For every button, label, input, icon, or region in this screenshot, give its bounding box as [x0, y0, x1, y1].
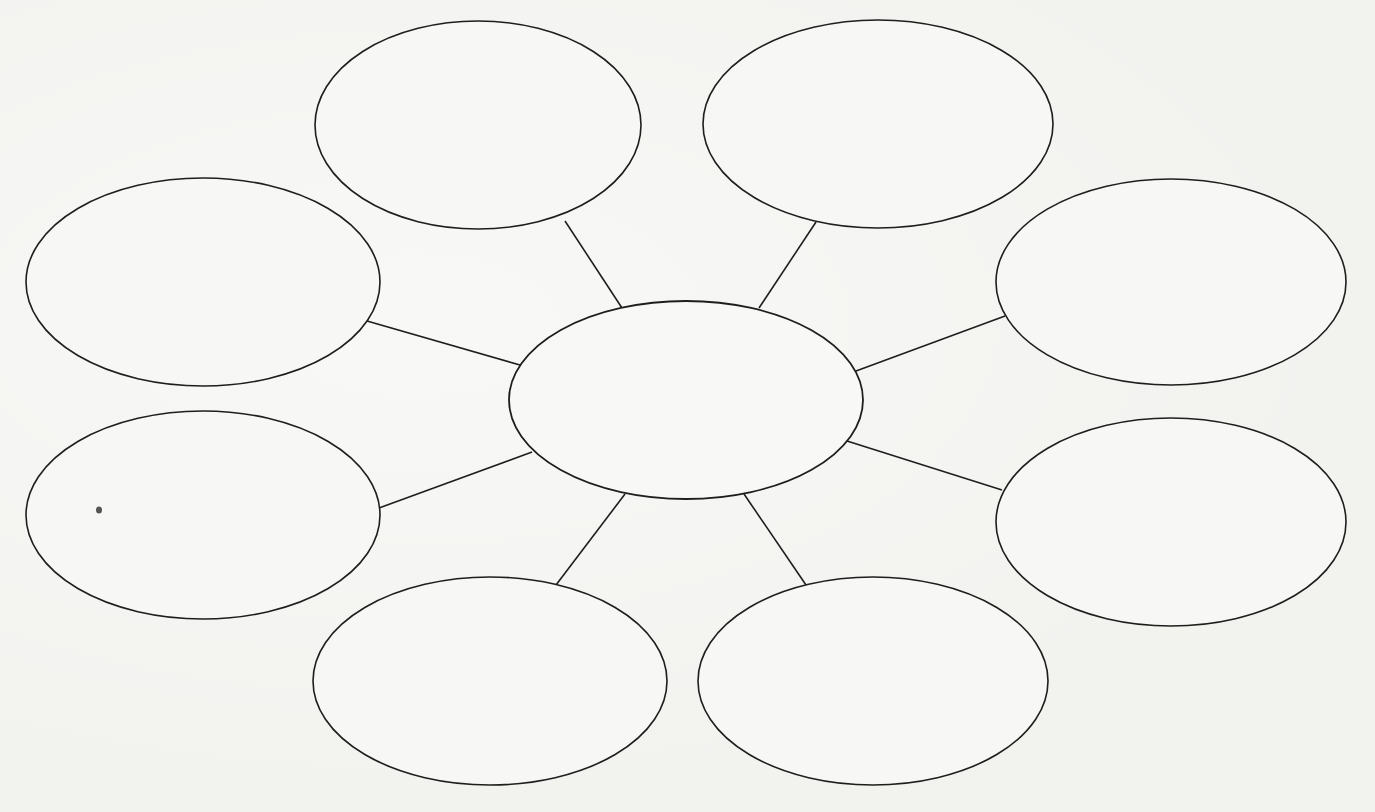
bubble-shape[interactable] [315, 21, 641, 229]
connector-line-lower-right [847, 441, 1002, 490]
bubble-shape[interactable] [703, 20, 1053, 228]
bubble-upper-left[interactable] [26, 178, 380, 386]
connector-line-bottom-left [556, 494, 625, 585]
bubble-top-right[interactable] [703, 20, 1053, 228]
connector-line-bottom-right [744, 494, 806, 585]
connector-line-lower-left [379, 452, 532, 508]
connector-line-top-right [759, 222, 816, 308]
bubble-bottom-left[interactable] [313, 577, 667, 785]
bubble-map-diagram [0, 0, 1375, 812]
paper-speck [96, 507, 102, 514]
bubble-top-left[interactable] [315, 21, 641, 229]
bubble-bottom-right[interactable] [698, 577, 1048, 785]
bubble-shape[interactable] [698, 577, 1048, 785]
bubble-shape[interactable] [313, 577, 667, 785]
bubble-upper-right[interactable] [996, 179, 1346, 385]
bubble-shape[interactable] [26, 178, 380, 386]
connector-line-upper-left [367, 321, 520, 365]
bubble-lower-right[interactable] [996, 418, 1346, 626]
center-bubble[interactable] [509, 301, 863, 499]
bubble-shape[interactable] [996, 418, 1346, 626]
connector-line-upper-right [856, 316, 1005, 371]
bubble-map-worksheet [0, 0, 1375, 812]
bubble-lower-left[interactable] [26, 411, 380, 619]
bubble-shape[interactable] [26, 411, 380, 619]
center-bubble-group [509, 301, 863, 499]
bubble-shape[interactable] [996, 179, 1346, 385]
connector-line-top-left [565, 221, 622, 308]
